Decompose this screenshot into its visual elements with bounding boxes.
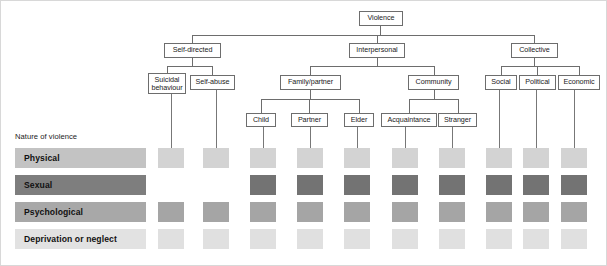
node-stranger[interactable]: Stranger — [438, 113, 477, 127]
drop-line-elder — [357, 127, 358, 148]
connector-to-acquaintance — [409, 99, 410, 113]
drop-line-political — [536, 90, 537, 148]
drop-line-self-abuse — [216, 90, 217, 148]
node-violence[interactable]: Violence — [359, 11, 403, 26]
matrix-cell — [392, 229, 418, 249]
connector-to-self-directed — [192, 35, 193, 43]
node-interpersonal[interactable]: Interpersonal — [349, 43, 405, 58]
connector-to-community — [434, 66, 435, 75]
matrix-cell — [344, 229, 370, 249]
matrix-cell — [392, 175, 418, 195]
connector-level1-bus — [192, 35, 535, 36]
matrix-cell — [523, 175, 549, 195]
matrix-row-label: Deprivation or neglect — [15, 229, 146, 249]
connector-to-political — [537, 66, 538, 75]
node-social[interactable]: Social — [485, 75, 517, 90]
matrix-cell — [523, 202, 549, 222]
drop-line-stranger — [452, 127, 453, 148]
matrix-cell — [344, 202, 370, 222]
matrix-cell — [486, 148, 512, 168]
matrix-cell — [203, 202, 229, 222]
connector-to-stranger — [458, 99, 459, 113]
matrix-cell — [250, 175, 276, 195]
matrix-cell — [392, 202, 418, 222]
connector-to-suicidal — [167, 66, 168, 73]
matrix-cell — [523, 148, 549, 168]
matrix-cell — [203, 148, 229, 168]
node-family-partner[interactable]: Family/partner — [280, 75, 341, 90]
node-collective[interactable]: Collective — [511, 43, 558, 58]
matrix-cell — [486, 175, 512, 195]
connector-to-elder — [359, 99, 360, 113]
matrix-cell — [561, 148, 587, 168]
matrix-cell — [561, 175, 587, 195]
nature-of-violence-label: Nature of violence — [15, 132, 77, 141]
connector-to-family-partner — [310, 66, 311, 75]
matrix-cell — [439, 229, 465, 249]
matrix-cell — [158, 148, 184, 168]
connector-collective-bus — [501, 66, 579, 67]
connector-interpersonal-bus — [310, 66, 434, 67]
node-community[interactable]: Community — [408, 75, 459, 90]
connector-to-collective — [534, 35, 535, 43]
node-partner[interactable]: Partner — [291, 113, 328, 127]
node-elder[interactable]: Elder — [344, 113, 374, 127]
connector-root-stem — [380, 26, 381, 35]
connector-self-directed-bus — [167, 66, 213, 67]
matrix-cell — [561, 202, 587, 222]
matrix-row-label: Psychological — [15, 202, 146, 222]
matrix-cell — [250, 202, 276, 222]
matrix-cell — [158, 229, 184, 249]
connector-collective-stem — [534, 58, 535, 66]
matrix-cell — [486, 229, 512, 249]
node-self-abuse[interactable]: Self-abuse — [190, 75, 235, 90]
connector-self-directed-stem — [192, 58, 193, 66]
matrix-cell — [486, 202, 512, 222]
matrix-cell — [344, 148, 370, 168]
node-suicidal-behaviour[interactable]: Suicidal behaviour — [148, 73, 186, 94]
matrix-cell — [439, 175, 465, 195]
connector-to-self-abuse — [212, 66, 213, 75]
matrix-cell — [250, 148, 276, 168]
drop-line-acquaintance — [405, 127, 406, 148]
violence-typology-diagram: Violence Self-directed Interpersonal Col… — [0, 0, 607, 266]
matrix-cell — [439, 148, 465, 168]
node-acquaintance[interactable]: Acquaintance — [381, 113, 437, 127]
matrix-cell — [250, 229, 276, 249]
connector-interpersonal-stem — [377, 58, 378, 66]
connector-to-interpersonal — [377, 35, 378, 43]
matrix-cell — [158, 202, 184, 222]
matrix-cell — [439, 202, 465, 222]
node-child[interactable]: Child — [246, 113, 276, 127]
matrix-row-label: Sexual — [15, 175, 146, 195]
drop-line-partner — [310, 127, 311, 148]
drop-line-child — [263, 127, 264, 148]
matrix-cell — [297, 148, 323, 168]
connector-to-child — [261, 99, 262, 113]
matrix-row-label: Physical — [15, 148, 146, 168]
connector-family-bus — [261, 99, 359, 100]
node-political[interactable]: Political — [519, 75, 556, 90]
matrix-cell — [297, 202, 323, 222]
connector-community-bus — [409, 99, 458, 100]
connector-community-stem — [434, 90, 435, 99]
matrix-cell — [523, 229, 549, 249]
matrix-cell — [561, 229, 587, 249]
connector-to-economic — [579, 66, 580, 75]
matrix-cell — [297, 175, 323, 195]
matrix-cell — [297, 229, 323, 249]
matrix-cell — [392, 148, 418, 168]
drop-line-social — [499, 90, 500, 148]
matrix-cell — [344, 175, 370, 195]
connector-family-stem — [310, 90, 311, 99]
drop-line-suicidal — [171, 94, 172, 148]
node-economic[interactable]: Economic — [558, 75, 600, 90]
matrix-cell — [203, 229, 229, 249]
connector-to-social — [501, 66, 502, 75]
node-self-directed[interactable]: Self-directed — [164, 43, 221, 58]
connector-to-partner — [309, 99, 310, 113]
drop-line-economic — [574, 90, 575, 148]
